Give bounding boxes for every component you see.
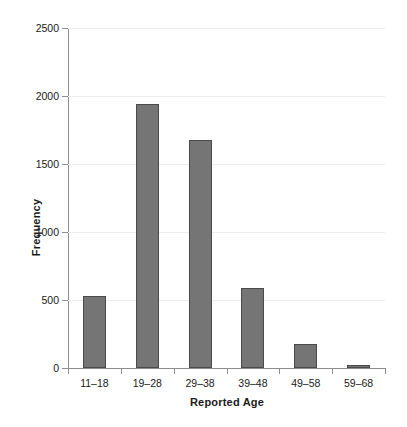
x-axis-tick-label: 49–58: [276, 377, 336, 389]
y-axis-tick-label: 0: [3, 362, 59, 374]
x-axis-tick-mark: [121, 369, 122, 374]
y-axis-tick-labels: 05001000150020002500: [0, 0, 59, 427]
bar: [294, 344, 317, 368]
y-axis-tick-label: 1000: [3, 226, 59, 238]
x-axis-tick-label: 39–48: [223, 377, 283, 389]
x-axis-tick-mark: [227, 369, 228, 374]
gridline: [68, 28, 385, 29]
x-axis-tick-label: 11–18: [64, 377, 124, 389]
gridline: [68, 300, 385, 301]
y-axis-tick-label: 2500: [3, 22, 59, 34]
bar: [241, 288, 264, 368]
y-axis-tick-label: 2000: [3, 90, 59, 102]
x-axis-tick-label: 29–38: [170, 377, 230, 389]
y-axis-tick-label: 1500: [3, 158, 59, 170]
gridline: [68, 232, 385, 233]
y-axis-tick-label: 500: [3, 294, 59, 306]
x-axis-tick-label: 19–28: [117, 377, 177, 389]
x-axis-tick-mark: [385, 369, 386, 374]
bar: [136, 104, 159, 368]
x-axis-tick-mark: [174, 369, 175, 374]
plot-area: [68, 28, 385, 368]
x-axis-tick-label: 59–68: [329, 377, 389, 389]
x-axis-tick-mark: [68, 369, 69, 374]
x-axis-tick-mark: [332, 369, 333, 374]
x-axis-title: Reported Age: [68, 396, 386, 408]
bar: [189, 140, 212, 368]
bar-chart: Frequency 05001000150020002500 11–1819–2…: [0, 0, 407, 427]
bar: [347, 365, 370, 368]
bar: [83, 296, 106, 368]
x-axis-tick-mark: [279, 369, 280, 374]
gridline: [68, 96, 385, 97]
gridline: [68, 164, 385, 165]
